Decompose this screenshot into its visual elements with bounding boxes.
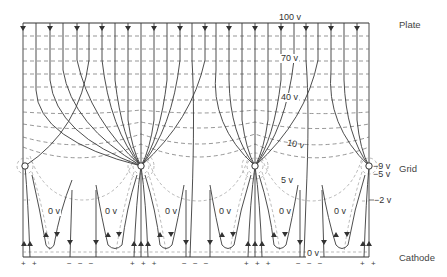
label-100v: 100 v [278,13,302,22]
equipotentials-upper [23,36,369,158]
label-5v: 5 v [280,176,294,185]
cathode-signs-plus-2: + + + [130,260,158,268]
label-0v-4: 0 v [218,207,232,216]
label-0v-cathode: 0 v [306,249,320,258]
label-0v-3: 0 v [164,207,178,216]
label-minus2v: −2 v [373,196,392,205]
grid-wires [22,163,372,169]
cathode-signs-minus-3: − − − [296,260,324,268]
grid-label: Grid [399,164,417,174]
cathode-signs-minus-1: − − − [67,260,95,268]
plate-arrows [20,26,360,31]
label-40v: 40 v [280,93,299,102]
cathode-label: Cathode [399,253,435,263]
label-70v: 70 v [280,54,299,63]
cathode-arrows [21,232,372,246]
label-0v-5: 0 v [278,207,292,216]
plate-label: Plate [399,20,421,30]
label-0v-1: 0 v [47,207,61,216]
label-0v-6: 0 v [333,207,347,216]
field-lines [23,23,369,257]
triode-field-diagram [0,0,447,277]
cathode-signs-plus-3: + + + [244,260,272,268]
cathode-signs-plus-1: + + [21,260,39,268]
cathode-signs-plus-4: + + [360,260,378,268]
label-minus5v: −5 v [372,170,391,179]
cathode-signs-minus-2: − − − [182,260,210,268]
label-0v-2: 0 v [104,207,118,216]
